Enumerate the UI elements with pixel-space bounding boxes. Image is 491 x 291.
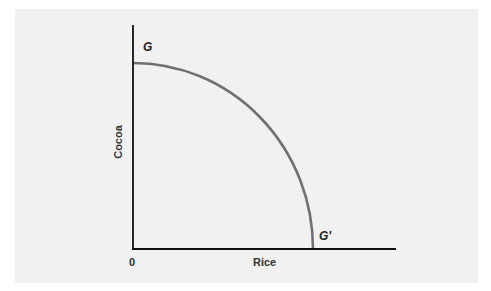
- origin-label: 0: [129, 256, 135, 268]
- point-label-g: G: [143, 40, 152, 54]
- point-label-g-prime: G': [319, 229, 331, 243]
- x-axis-label: Rice: [253, 256, 276, 268]
- ppf-curve: [133, 63, 313, 249]
- ppf-chart: [0, 0, 491, 291]
- y-axis-label: Cocoa: [112, 125, 124, 159]
